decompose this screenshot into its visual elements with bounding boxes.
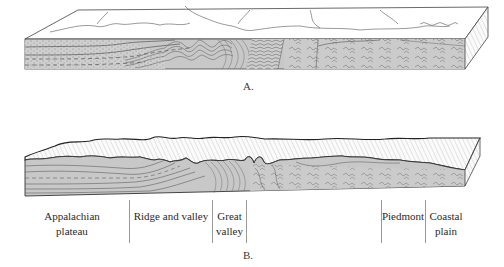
region-divider — [246, 200, 247, 243]
region-label-piedmont: Piedmont — [381, 209, 425, 224]
region-divider — [425, 200, 426, 243]
panel-a-top-surface — [25, 7, 488, 39]
panel-b-block — [25, 136, 480, 196]
panel-b-caption: B. — [243, 249, 253, 261]
region-label-coastal-plain: Coastal plain — [427, 209, 465, 239]
region-label-ridge-and-valley: Ridge and valley — [131, 209, 211, 224]
panel-a-caption: A. — [243, 80, 254, 92]
region-divider — [129, 200, 130, 243]
region-label-great-valley: Great valley — [213, 209, 246, 239]
region-label-appalachian-plateau: Appalachian plateau — [30, 209, 114, 239]
panel-a-block — [25, 6, 488, 69]
